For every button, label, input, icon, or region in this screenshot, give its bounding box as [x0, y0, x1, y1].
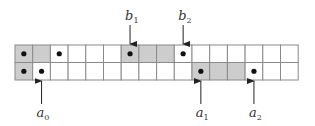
grid-cell	[68, 63, 86, 81]
pointer-a1: a1	[196, 81, 209, 122]
grid-cell	[86, 63, 104, 81]
grid-cell	[192, 45, 210, 63]
grid-cell	[263, 45, 281, 63]
pointer-b2: b2	[178, 8, 191, 44]
grid-cell	[86, 45, 104, 63]
grid-cell	[227, 45, 245, 63]
grid-cell	[281, 63, 299, 81]
pointer-grid-diagram: b1b2a0a1a2	[0, 0, 315, 126]
grid-cell-shaded	[139, 45, 157, 63]
grid-cell	[50, 63, 68, 81]
grid-cell	[157, 63, 175, 81]
dot-marker	[39, 69, 44, 74]
pointer-a2: a2	[249, 81, 262, 122]
grid-cell	[263, 63, 281, 81]
pointer-label: a2	[249, 105, 262, 122]
grid-cells	[15, 45, 298, 80]
grid-cell	[139, 63, 157, 81]
dot-marker	[57, 51, 62, 56]
pointer-label: a1	[196, 105, 209, 122]
grid-cell	[174, 63, 192, 81]
grid-cell-shaded	[157, 45, 175, 63]
dot-marker	[181, 51, 186, 56]
diagram-canvas: b1b2a0a1a2	[0, 0, 315, 126]
grid-cell-shaded	[33, 45, 51, 63]
grid-cell	[281, 45, 299, 63]
grid-cell-shaded	[210, 63, 228, 81]
grid-cell	[68, 45, 86, 63]
grid-cell	[121, 63, 139, 81]
pointer-label: a0	[37, 105, 50, 122]
pointer-label: b1	[125, 8, 138, 25]
grid-cell	[104, 63, 122, 81]
grid-cell	[210, 45, 228, 63]
pointer-a0: a0	[37, 81, 50, 122]
dot-marker	[21, 51, 26, 56]
pointer-label: b2	[178, 8, 191, 25]
grid-cell	[245, 45, 263, 63]
grid-cell	[104, 45, 122, 63]
dot-marker	[21, 69, 26, 74]
dot-marker	[198, 69, 203, 74]
dot-marker	[251, 69, 256, 74]
grid-cell-shaded	[227, 63, 245, 81]
dot-marker	[127, 51, 132, 56]
pointer-b1: b1	[125, 8, 138, 44]
